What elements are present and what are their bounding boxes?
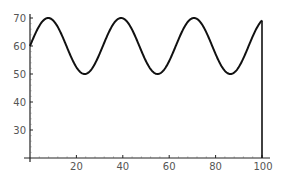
y-tick-label: 70 (13, 13, 26, 24)
y-tick-label: 40 (13, 97, 26, 108)
y-tick-label: 60 (13, 41, 26, 52)
x-tick-label: 100 (253, 161, 272, 172)
line-chart: 70 60 50 40 30 20 40 60 80 100 (0, 0, 283, 188)
x-tick-label: 80 (209, 161, 222, 172)
data-series-line (30, 18, 262, 74)
x-tick-label: 20 (70, 161, 83, 172)
y-tick-labels: 70 60 50 40 30 (13, 13, 26, 136)
x-tick-label: 60 (163, 161, 176, 172)
x-tick-labels: 20 40 60 80 100 (70, 161, 273, 172)
y-tick-label: 30 (13, 125, 26, 136)
x-tick-label: 40 (116, 161, 129, 172)
y-tick-label: 50 (13, 69, 26, 80)
